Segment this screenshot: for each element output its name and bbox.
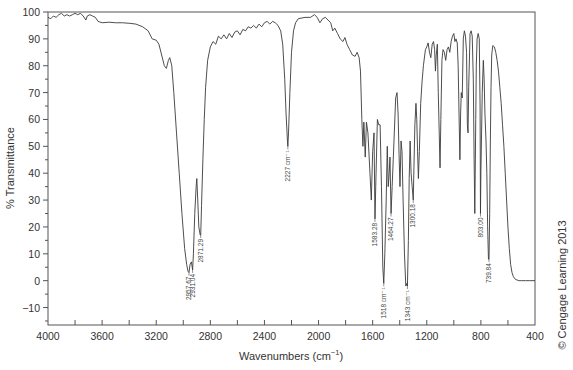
x-axis-title-sup: −1 bbox=[331, 348, 340, 357]
y-tick-label: 100 bbox=[22, 6, 40, 18]
x-tick-label: 3200 bbox=[145, 330, 169, 342]
peak-label: 2931.04 bbox=[189, 274, 196, 298]
peak-label: 1518 cm⁻¹ bbox=[380, 287, 387, 319]
x-tick-label: 3600 bbox=[90, 330, 114, 342]
peak-label: 739.84 bbox=[485, 263, 492, 283]
x-tick-label: 2800 bbox=[199, 330, 223, 342]
peak-label: 1583.28 bbox=[371, 222, 378, 246]
y-tick-label: −10 bbox=[22, 302, 40, 314]
peak-annotation: 2227 cm⁻¹ bbox=[284, 146, 291, 181]
y-tick-label: 80 bbox=[28, 60, 40, 72]
peak-annotation: 1583.28 bbox=[371, 219, 378, 247]
peak-annotation: 739.84 bbox=[485, 259, 492, 283]
x-tick-label: 4000 bbox=[36, 330, 60, 342]
peak-label: 1464.27 bbox=[387, 217, 394, 241]
x-axis-ticks: 40003600320028002400200016001200800400 bbox=[36, 320, 544, 342]
y-tick-label: 20 bbox=[28, 221, 40, 233]
y-tick-label: 0 bbox=[34, 275, 40, 287]
x-axis-title: Wavenumbers (cm−1) bbox=[239, 348, 343, 362]
x-tick-label: 1600 bbox=[361, 330, 385, 342]
spectrum-line bbox=[48, 13, 535, 286]
peak-annotation: 2931.04 bbox=[189, 270, 196, 297]
ir-spectrum-chart: 40003600320028002400200016001200800400 1… bbox=[0, 0, 573, 370]
y-tick-label: 50 bbox=[28, 140, 40, 152]
y-tick-label: 60 bbox=[28, 113, 40, 125]
peak-annotations: 2957.672931.042871.292227 cm⁻¹1583.28151… bbox=[185, 146, 492, 321]
peak-annotation: 1464.27 bbox=[387, 214, 394, 241]
y-axis-title: % Transmittance bbox=[4, 127, 16, 209]
x-axis-title-close: ) bbox=[339, 350, 343, 362]
y-tick-label: 90 bbox=[28, 33, 40, 45]
peak-label: 803.00 bbox=[477, 217, 484, 237]
peak-annotation: 1300.18 bbox=[409, 200, 416, 228]
peak-label: 1343 cm⁻¹ bbox=[404, 289, 411, 321]
peak-label: 1300.18 bbox=[409, 204, 416, 228]
peak-annotation: 2871.29 bbox=[197, 235, 204, 263]
x-tick-label: 2000 bbox=[307, 330, 331, 342]
copyright-notice: © Cengage Learning 2013 bbox=[556, 220, 568, 349]
peak-annotation: 1518 cm⁻¹ bbox=[380, 283, 387, 318]
peak-label: 2871.29 bbox=[197, 239, 204, 263]
x-tick-label: 2400 bbox=[253, 330, 277, 342]
peak-label: 2227 cm⁻¹ bbox=[284, 150, 291, 182]
x-axis-title-base: Wavenumbers (cm bbox=[239, 350, 331, 362]
y-axis-ticks: 1009080706050403020100−10 bbox=[22, 6, 48, 321]
peak-annotation: 803.00 bbox=[477, 214, 484, 238]
y-tick-label: 30 bbox=[28, 194, 40, 206]
x-tick-label: 1200 bbox=[415, 330, 439, 342]
x-tick-label: 800 bbox=[472, 330, 490, 342]
peak-annotation: 1343 cm⁻¹ bbox=[404, 286, 411, 321]
y-tick-label: 40 bbox=[28, 167, 40, 179]
y-tick-label: 70 bbox=[28, 87, 40, 99]
x-tick-label: 400 bbox=[526, 330, 544, 342]
y-tick-label: 10 bbox=[28, 248, 40, 260]
